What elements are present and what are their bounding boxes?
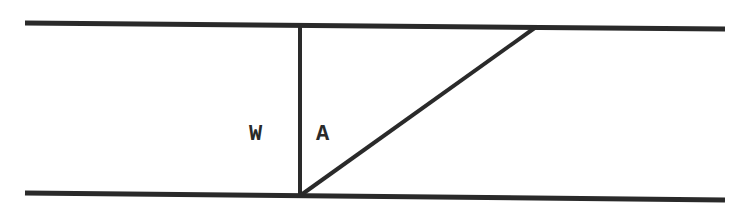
diagram-canvas: W A (0, 0, 753, 218)
diagonal-segment (301, 27, 536, 195)
top-boundary-line (25, 23, 725, 29)
bottom-boundary-line (25, 193, 725, 200)
label-a: A (316, 122, 330, 147)
label-w: W (249, 122, 263, 147)
